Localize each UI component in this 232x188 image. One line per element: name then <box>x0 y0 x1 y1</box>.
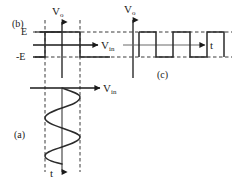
panel-b-vin-axis-letter: V <box>101 39 109 51</box>
panel-a-time-axis-label: t <box>50 168 53 179</box>
figure-canvas: (b) Vo Vin E -E (a) Vin t (c) Vo t <box>0 0 232 188</box>
panel-b-vo-axis-letter: V <box>52 5 60 17</box>
panel-c-vo-axis-label: Vo <box>124 4 135 17</box>
panel-b-vo-axis-subscript: o <box>60 11 64 19</box>
panel-c-time-axis-label: t <box>210 40 213 51</box>
panel-a-group <box>30 88 100 172</box>
panel-b-vin-axis-label: Vin <box>101 40 114 53</box>
panel-a-vin-axis-letter: V <box>103 82 111 94</box>
panel-a-label: (a) <box>14 130 25 140</box>
panel-c-vo-axis-letter: V <box>124 3 132 15</box>
panel-c-label: (c) <box>157 70 168 80</box>
panel-b-vo-axis-label: Vo <box>52 6 63 19</box>
panel-b-vin-axis-subscript: in <box>109 45 114 53</box>
panel-b-level-label-low: -E <box>16 52 25 62</box>
panel-c-group <box>123 20 224 78</box>
panel-b-level-label-high: E <box>21 27 27 37</box>
panel-c-vo-axis-subscript: o <box>132 9 136 17</box>
panel-a-vin-axis-label: Vin <box>103 83 116 96</box>
panel-a-vin-axis-subscript: in <box>111 88 116 96</box>
